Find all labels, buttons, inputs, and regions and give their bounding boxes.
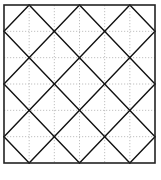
diagonal-line: [80, 5, 156, 84]
watermark-text: [4, 167, 156, 177]
diagonal-line: [130, 5, 155, 31]
diagonal-line: [29, 31, 155, 163]
diagonal-line: [4, 84, 80, 163]
diagonal-line: [29, 5, 155, 137]
diamond-lattice-diagram: [0, 0, 161, 180]
diagonal-line: [130, 137, 155, 163]
diagonal-line: [4, 5, 80, 84]
diagonal-line: [4, 5, 130, 137]
diagonal-line: [4, 5, 29, 31]
diagonal-line: [4, 137, 29, 163]
diagonal-line: [4, 31, 130, 163]
diagonal-line: [80, 84, 156, 163]
dotted-gridlines: [4, 5, 155, 163]
